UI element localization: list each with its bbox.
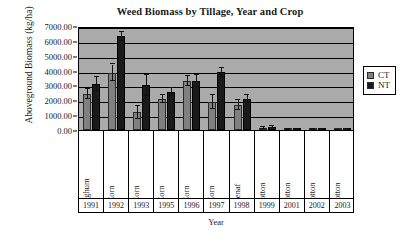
error-bar-cap-upper bbox=[94, 76, 99, 77]
bar-group bbox=[204, 28, 229, 130]
error-bar-cap-upper bbox=[160, 94, 165, 95]
legend-label: NT bbox=[378, 81, 390, 90]
error-bar-cap-lower bbox=[135, 118, 140, 119]
crop-cell: Corn bbox=[179, 131, 204, 198]
error-bar-cap-lower bbox=[144, 95, 149, 96]
error-bar-cap-upper bbox=[269, 125, 274, 126]
bar-nt-1992 bbox=[117, 36, 125, 130]
y-tick-label: 1000.00 bbox=[44, 112, 72, 121]
year-label: 1991 bbox=[79, 199, 104, 212]
year-label: 2003 bbox=[330, 199, 355, 212]
weed-biomass-chart: Weed Biomass by Tillage, Year and Crop A… bbox=[0, 0, 414, 241]
crop-cell: Cotton bbox=[305, 131, 330, 198]
error-bar-cap-upper bbox=[185, 75, 190, 76]
error-bar-cap-upper bbox=[244, 94, 249, 95]
bar-ct-1995 bbox=[158, 99, 166, 130]
crop-cell: Cotton bbox=[280, 131, 305, 198]
plot-area bbox=[78, 27, 354, 131]
bar-nt-1998 bbox=[243, 99, 251, 130]
year-label: 1995 bbox=[154, 199, 179, 212]
y-tick-mark bbox=[73, 131, 77, 132]
bar-group bbox=[230, 28, 255, 130]
legend-item-nt[interactable]: NT bbox=[367, 81, 390, 90]
bar-group bbox=[129, 28, 154, 130]
legend-swatch-icon bbox=[367, 82, 374, 89]
error-bar-cap-lower bbox=[344, 129, 349, 130]
error-bar-cap-lower bbox=[219, 76, 224, 77]
y-tick-label: 3000.00 bbox=[44, 82, 72, 91]
chart-title: Weed Biomass by Tillage, Year and Crop bbox=[60, 6, 360, 17]
y-axis-tick-labels: 0.001000.002000.003000.004000.005000.006… bbox=[26, 22, 76, 136]
bar-group bbox=[154, 28, 179, 130]
error-bar-cap-lower bbox=[210, 108, 215, 109]
bar-ct-1996 bbox=[183, 81, 191, 130]
error-bar-cap-lower bbox=[169, 95, 174, 96]
year-label: 1999 bbox=[255, 199, 280, 212]
year-label: 1998 bbox=[230, 199, 255, 212]
error-bar-cap-upper bbox=[169, 87, 174, 88]
error-bar-cap-lower bbox=[119, 40, 124, 41]
error-bar-cap-lower bbox=[244, 102, 249, 103]
legend-swatch-icon bbox=[367, 72, 374, 79]
y-tick-mark bbox=[73, 116, 77, 117]
error-bar-cap-upper bbox=[235, 99, 240, 100]
year-label: 2001 bbox=[280, 199, 305, 212]
error-bar-cap-lower bbox=[294, 129, 299, 130]
error-bar-cap-lower bbox=[235, 109, 240, 110]
legend-label: CT bbox=[378, 71, 390, 80]
error-bar-cap-lower bbox=[194, 86, 199, 87]
crop-cell: Cotton bbox=[330, 131, 355, 198]
error-bar-cap-upper bbox=[219, 67, 224, 68]
crop-cell: Sorghum bbox=[79, 131, 104, 198]
bar-nt-1997 bbox=[217, 72, 225, 130]
y-tick-mark bbox=[73, 56, 77, 57]
legend-item-ct[interactable]: CT bbox=[367, 71, 390, 80]
error-bar-cap-upper bbox=[85, 88, 90, 89]
bar-group bbox=[255, 28, 280, 130]
y-tick-label: 6000.00 bbox=[44, 38, 72, 47]
error-bar-cap-lower bbox=[160, 102, 165, 103]
error-bar-stem bbox=[96, 77, 97, 92]
error-bar-cap-lower bbox=[335, 129, 340, 130]
error-bar-cap-upper bbox=[144, 74, 149, 75]
y-tick-mark bbox=[73, 101, 77, 102]
error-bar-cap-lower bbox=[269, 127, 274, 128]
bar-ct-1991 bbox=[83, 94, 91, 130]
y-tick-label: 0.00 bbox=[57, 127, 72, 136]
crop-cell: Kenaf bbox=[230, 131, 255, 198]
error-bar-cap-upper bbox=[194, 74, 199, 75]
error-bar-stem bbox=[112, 65, 113, 82]
y-tick-label: 4000.00 bbox=[44, 67, 72, 76]
year-label: 1996 bbox=[179, 199, 204, 212]
bar-ct-1992 bbox=[108, 73, 116, 130]
error-bar-stem bbox=[146, 75, 147, 96]
y-tick-mark bbox=[73, 41, 77, 42]
year-label: 1997 bbox=[204, 199, 229, 212]
y-tick-mark bbox=[73, 86, 77, 87]
error-bar-cap-lower bbox=[110, 80, 115, 81]
crop-cell: Corn bbox=[104, 131, 129, 198]
error-bar-cap-upper bbox=[135, 105, 140, 106]
error-bar-cap-upper bbox=[210, 94, 215, 95]
chart-legend: CTNT bbox=[363, 66, 396, 95]
crop-cell: Corn bbox=[129, 131, 154, 198]
bar-nt-1996 bbox=[192, 81, 200, 130]
crop-cell: Corn bbox=[204, 131, 229, 198]
crop-category-band: SorghumCornCornCornCornCornKenafCottonCo… bbox=[78, 131, 354, 199]
error-bar-cap-lower bbox=[319, 129, 324, 130]
error-bar-cap-lower bbox=[310, 129, 315, 130]
error-bar-cap-upper bbox=[119, 31, 124, 32]
year-label: 1993 bbox=[129, 199, 154, 212]
error-bar-cap-lower bbox=[85, 98, 90, 99]
y-tick-mark bbox=[73, 27, 77, 28]
bars-layer bbox=[79, 28, 353, 130]
bar-group bbox=[179, 28, 204, 130]
error-bar-cap-lower bbox=[94, 90, 99, 91]
error-bar-cap-lower bbox=[185, 85, 190, 86]
y-tick-label: 5000.00 bbox=[44, 52, 72, 61]
year-label: 1992 bbox=[104, 199, 129, 212]
bar-group bbox=[280, 28, 305, 130]
year-category-band: 1991199219931995199619971998199920012002… bbox=[78, 199, 354, 213]
error-bar-stem bbox=[212, 95, 213, 109]
y-tick-mark bbox=[73, 71, 77, 72]
